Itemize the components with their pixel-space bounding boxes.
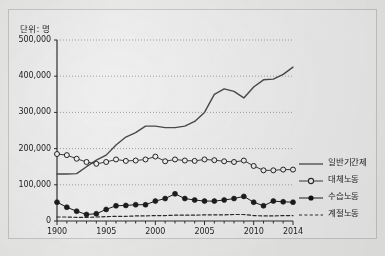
series-marker-1-7: [123, 158, 128, 163]
series-marker-2-13: [182, 196, 187, 201]
series-marker-1-5: [104, 159, 109, 164]
y-tick-label-0: 0: [7, 216, 51, 225]
series-marker-2-7: [123, 203, 128, 208]
series-marker-1-24: [291, 167, 296, 172]
series-marker-1-4: [94, 161, 99, 166]
series-marker-1-1: [64, 153, 69, 158]
series-marker-2-0: [55, 200, 60, 205]
series-marker-2-4: [94, 211, 99, 216]
x-tick-label-0: 1900: [37, 227, 77, 236]
series-marker-1-15: [202, 157, 207, 162]
series-marker-2-5: [104, 207, 109, 212]
x-tick-label-1: 1905: [86, 227, 126, 236]
series-marker-1-23: [281, 167, 286, 172]
series-marker-2-19: [241, 194, 246, 199]
y-tick-label-1: 100,000: [7, 180, 51, 189]
series-marker-1-0: [55, 152, 60, 157]
series-marker-2-15: [202, 199, 207, 204]
series-marker-1-3: [84, 159, 89, 164]
series-marker-2-11: [163, 196, 168, 201]
dashed-line-key: [298, 206, 324, 218]
series-marker-2-14: [192, 198, 197, 203]
series-marker-2-6: [114, 203, 119, 208]
legend-label-3: 계절노동: [328, 206, 359, 218]
legend-label-1: 대체노동: [328, 172, 359, 184]
legend-label-2: 수습노동: [328, 189, 359, 201]
series-marker-1-2: [74, 156, 79, 161]
legend-item-1: 대체노동: [298, 169, 378, 186]
series-marker-1-18: [232, 159, 237, 164]
series-marker-1-17: [222, 159, 227, 164]
solid-line-key: [298, 155, 324, 167]
series-marker-2-20: [251, 200, 256, 205]
legend-item-2: 수습노동: [298, 186, 378, 203]
series-line-2: [57, 194, 293, 215]
open-circle-line-key: [298, 172, 324, 184]
y-tick-label-2: 200,000: [7, 144, 51, 153]
series-marker-1-8: [133, 158, 138, 163]
series-marker-2-18: [232, 196, 237, 201]
y-tick-label-3: 300,000: [7, 107, 51, 116]
y-tick-label-5: 500,000: [7, 35, 51, 44]
legend-item-0: 일반기간제: [298, 152, 378, 169]
series-marker-1-12: [173, 157, 178, 162]
series-marker-1-14: [192, 158, 197, 163]
series-marker-1-13: [182, 158, 187, 163]
series-marker-2-8: [133, 202, 138, 207]
series-marker-2-12: [173, 191, 178, 196]
chart-legend: 일반기간제 대체노동 수습노동 계절노동: [298, 152, 378, 220]
series-marker-2-9: [143, 202, 148, 207]
legend-label-0: 일반기간제: [328, 155, 367, 167]
series-marker-2-16: [212, 199, 217, 204]
x-tick-label-5: 2014: [273, 227, 313, 236]
series-line-3: [57, 214, 293, 217]
series-marker-2-23: [281, 199, 286, 204]
series-marker-2-3: [84, 212, 89, 217]
filled-circle-line-key: [298, 189, 324, 201]
x-tick-label-2: 2000: [135, 227, 175, 236]
series-marker-1-6: [114, 157, 119, 162]
axes-group: [54, 40, 293, 225]
series-marker-2-17: [222, 198, 227, 203]
series-marker-2-1: [64, 205, 69, 210]
legend-item-3: 계절노동: [298, 203, 378, 220]
chart-figure: 단위: 명 0100,000200,000300,000400,000500,0…: [0, 0, 385, 256]
series-marker-1-20: [251, 163, 256, 168]
series-marker-1-9: [143, 157, 148, 162]
series-marker-1-19: [241, 158, 246, 163]
data-series-group: [55, 67, 296, 217]
x-tick-label-4: 2010: [234, 227, 274, 236]
series-marker-2-22: [271, 199, 276, 204]
series-marker-2-2: [74, 209, 79, 214]
series-marker-2-10: [153, 199, 158, 204]
series-marker-1-16: [212, 158, 217, 163]
series-marker-1-22: [271, 168, 276, 173]
series-marker-1-21: [261, 168, 266, 173]
series-marker-1-11: [163, 159, 168, 164]
y-tick-label-4: 400,000: [7, 71, 51, 80]
x-tick-label-3: 2005: [185, 227, 225, 236]
series-marker-1-10: [153, 154, 158, 159]
series-marker-2-24: [291, 200, 296, 205]
series-marker-2-21: [261, 203, 266, 208]
